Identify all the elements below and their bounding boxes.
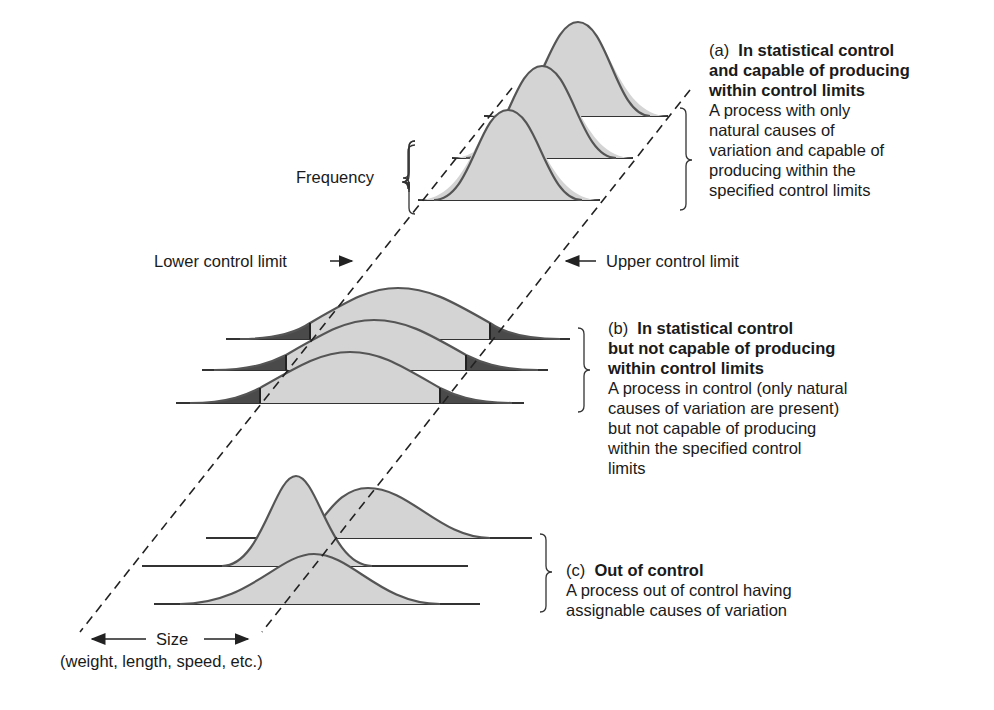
panel-b-description-line: within the specified control	[608, 438, 847, 458]
panel-b-caption: (b) In statistical control but not capab…	[608, 318, 847, 478]
panel-b-description-line: A process in control (only natural	[608, 378, 847, 398]
panel-c-title-line: Out of control	[594, 561, 703, 579]
group-a-curves	[418, 22, 668, 200]
panel-a-brace	[680, 108, 692, 210]
panel-c-caption: (c) Out of control A process out of cont…	[566, 560, 792, 620]
panel-a-description-line: variation and capable of	[709, 140, 910, 160]
panel-a-description-line: producing within the	[709, 160, 910, 180]
size-examples-label: (weight, length, speed, etc.)	[60, 651, 263, 671]
panel-b-description-line: limits	[608, 458, 847, 478]
panel-c-brace	[540, 534, 552, 612]
panel-a-title-line: In statistical control	[738, 41, 894, 59]
panel-a-description-line: natural causes of	[709, 120, 910, 140]
panel-b-prefix: (b)	[608, 319, 628, 337]
panel-c-prefix: (c)	[566, 561, 585, 579]
size-label: Size	[156, 629, 188, 649]
panel-b-title-line: In statistical control	[637, 319, 793, 337]
group-b-curves	[176, 288, 570, 403]
panel-a-title-line: within control limits	[709, 80, 910, 100]
panel-a-description-line: A process with only	[709, 100, 910, 120]
panel-c-description-line: A process out of control having	[566, 580, 792, 600]
panel-a-caption: (a) In statistical control and capable o…	[709, 40, 910, 200]
panel-a-description-line: specified control limits	[709, 180, 910, 200]
panel-b-description-line: but not capable of producing	[608, 418, 847, 438]
panel-b-brace	[578, 328, 590, 412]
frequency-label: Frequency	[296, 167, 374, 187]
panel-a-prefix: (a)	[709, 41, 729, 59]
panel-c-description-line: assignable causes of variation	[566, 600, 792, 620]
lower-control-limit-label: Lower control limit	[154, 251, 287, 271]
upper-control-limit-label: Upper control limit	[606, 251, 739, 271]
panel-b-description-line: causes of variation are present)	[608, 398, 847, 418]
panel-a-title-line: and capable of producing	[709, 60, 910, 80]
panel-b-title-line: but not capable of producing	[608, 338, 847, 358]
panel-b-title-line: within control limits	[608, 358, 847, 378]
group-c-curves	[142, 476, 532, 604]
